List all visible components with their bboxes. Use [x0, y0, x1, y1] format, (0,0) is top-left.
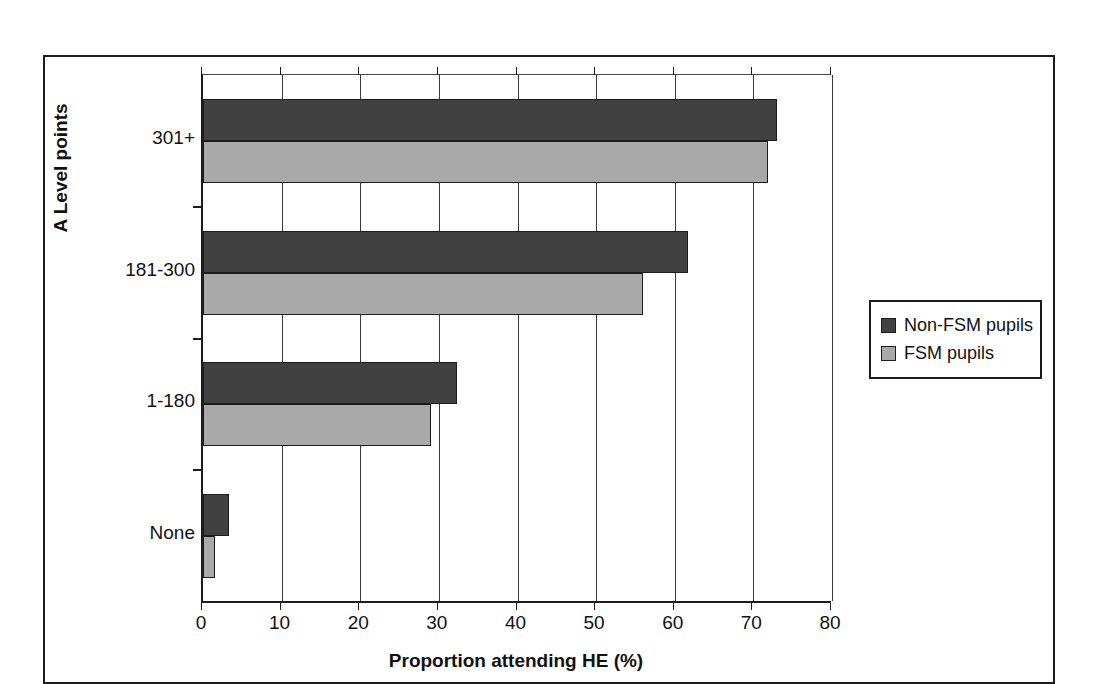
y-axis-tick — [193, 469, 202, 471]
x-axis-tick — [437, 601, 438, 610]
bar-non-fsm-pupils-301- — [203, 99, 777, 141]
bar-fsm-pupils-181-300 — [203, 273, 643, 315]
chart-legend: Non-FSM pupils FSM pupils — [869, 300, 1042, 379]
x-axis-tick-label: 70 — [721, 612, 781, 634]
y-axis-category-label: 181-300 — [35, 259, 195, 281]
x-axis-tick-label: 0 — [171, 612, 231, 634]
x-axis-tick — [751, 601, 752, 610]
legend-label-fsm: FSM pupils — [904, 343, 994, 364]
legend-item-fsm-pupils[interactable]: FSM pupils — [881, 339, 1030, 367]
y-axis-tick — [193, 338, 202, 340]
legend-label-non-fsm: Non-FSM pupils — [904, 315, 1033, 336]
x-axis-tick — [516, 601, 517, 610]
plot-area — [201, 74, 830, 601]
bar-fsm-pupils-301- — [203, 141, 768, 183]
x-axis-tick-label: 60 — [643, 612, 703, 634]
x-axis-tick-top — [280, 67, 281, 75]
x-axis-tick-label: 10 — [250, 612, 310, 634]
bar-fsm-pupils-1-180 — [203, 404, 431, 446]
legend-swatch-icon-fsm — [881, 346, 896, 361]
x-axis-tick-top — [437, 67, 438, 75]
x-axis-tick — [673, 601, 674, 610]
x-axis-tick-label: 50 — [564, 612, 624, 634]
x-axis-tick — [594, 601, 595, 610]
x-axis-tick — [358, 601, 359, 610]
x-axis-tick — [280, 601, 281, 610]
x-axis-tick-top — [751, 67, 752, 75]
legend-swatch-icon-non-fsm — [881, 318, 896, 333]
bar-fsm-pupils-none — [203, 536, 215, 578]
x-axis-tick-label: 30 — [407, 612, 467, 634]
x-axis-tick-top — [201, 67, 202, 75]
legend-item-non-fsm-pupils[interactable]: Non-FSM pupils — [881, 311, 1030, 339]
x-axis-tick-top — [830, 67, 831, 75]
x-axis-tick-top — [673, 67, 674, 75]
bar-non-fsm-pupils-none — [203, 494, 229, 536]
y-axis-tick-labels: None1-180181-300301+ — [20, 0, 195, 684]
bar-non-fsm-pupils-1-180 — [203, 362, 457, 404]
y-axis-tick — [193, 206, 202, 208]
x-axis-tick-label: 20 — [328, 612, 388, 634]
y-axis-category-label: 1-180 — [35, 390, 195, 412]
x-axis-tick-top — [358, 67, 359, 75]
y-axis-category-label: 301+ — [35, 127, 195, 149]
gridline — [832, 75, 833, 601]
x-axis-tick-top — [516, 67, 517, 75]
x-axis-title: Proportion attending HE (%) — [201, 650, 831, 672]
y-axis-category-label: None — [35, 522, 195, 544]
x-axis-tick — [201, 601, 202, 610]
x-axis-tick-top — [594, 67, 595, 75]
x-axis-tick-label: 80 — [800, 612, 860, 634]
x-axis-tick-label: 40 — [486, 612, 546, 634]
bar-non-fsm-pupils-181-300 — [203, 231, 688, 273]
x-axis-tick — [830, 601, 831, 610]
